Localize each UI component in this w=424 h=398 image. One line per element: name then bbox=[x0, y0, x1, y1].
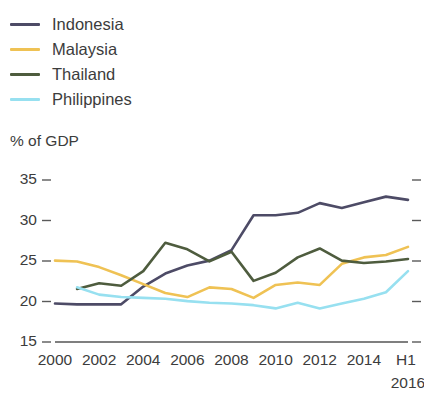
y-axis-tick-marks-right bbox=[412, 180, 421, 342]
series-line-malaysia bbox=[55, 247, 408, 298]
x-axis-tick-labels: 20002002200420062008201020122014H12016 bbox=[38, 351, 424, 391]
x-axis-tick-label: 2000 bbox=[38, 351, 73, 368]
y-axis-tick-label: 30 bbox=[20, 211, 38, 228]
x-axis-tick-label: 2002 bbox=[82, 351, 116, 368]
x-axis-tick-label: 2008 bbox=[214, 351, 248, 368]
y-axis-tick-label: 25 bbox=[20, 251, 37, 268]
y-axis-tick-labels: 3530252015 bbox=[20, 170, 38, 349]
x-axis-tick-label: 2004 bbox=[126, 351, 161, 368]
y-axis-tick-label: 20 bbox=[20, 292, 38, 309]
x-axis-tick-label: 2012 bbox=[303, 351, 337, 368]
x-axis-tick-sublabel: 2016 bbox=[391, 374, 424, 391]
series-lines bbox=[55, 197, 408, 309]
y-axis-tick-label: 15 bbox=[20, 332, 37, 349]
x-axis-tick-label: 2006 bbox=[170, 351, 204, 368]
x-axis-tick-label: 2010 bbox=[258, 351, 293, 368]
series-line-thailand bbox=[77, 243, 408, 289]
y-axis-tick-marks bbox=[42, 180, 51, 342]
y-axis-tick-label: 35 bbox=[20, 170, 37, 187]
x-axis-tick-label: H1 bbox=[396, 351, 416, 368]
gdp-line-chart: Indonesia Malaysia Thailand Philippines … bbox=[0, 0, 424, 398]
x-axis-tick-label: 2014 bbox=[347, 351, 382, 368]
plot-area: 3530252015 20002002200420062008201020122… bbox=[0, 0, 424, 398]
